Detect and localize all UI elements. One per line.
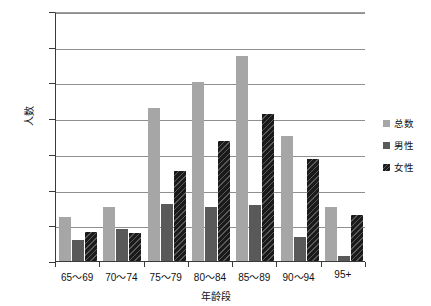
legend-item-label: 女性 [394,160,414,174]
bar-female [262,114,274,261]
gridline [56,13,365,14]
gridline [56,49,365,50]
bar-male [161,204,173,261]
x-axis-tick-mark [276,262,277,267]
bar-total [148,108,160,261]
bar-total [192,82,204,261]
bar-male [294,237,306,261]
bar-female [307,159,319,261]
x-axis-tick-mark [232,262,233,267]
legend: 总数男性女性 [383,116,414,182]
gridline [56,84,365,85]
legend-item[interactable]: 男性 [383,138,414,152]
gridline [56,120,365,121]
x-axis-title: 年龄段 [0,288,431,303]
x-axis-tick-label: 90～94 [276,269,320,284]
x-axis-tick-mark [99,262,100,267]
x-axis-tick-mark [188,262,189,267]
bar-male [205,207,217,261]
bar-female [218,141,230,261]
x-axis-tick-label: 85～89 [232,269,276,284]
legend-swatch-total [383,120,390,127]
plot-area [55,12,365,262]
legend-swatch-female [383,164,390,171]
x-axis-tick-mark [321,262,322,267]
y-axis-title: 人数 [21,86,36,146]
x-axis-tick-mark [55,262,56,267]
x-axis-tick-label: 80～84 [188,269,232,284]
bar-female [351,215,363,261]
x-axis-tick-mark [144,262,145,267]
bar-male [72,240,84,261]
x-axis-tick-label: 65～69 [55,269,99,284]
bar-total [281,136,293,261]
bar-male [116,229,128,261]
bar-total [59,217,71,261]
bar-chart: 人数 1400120010008006004002000 65～6970～747… [0,0,431,306]
x-axis-tick-label: 70～74 [99,269,143,284]
bar-female [85,232,97,261]
legend-item-label: 男性 [394,138,414,152]
legend-swatch-male [383,142,390,149]
bar-male [249,205,261,261]
bar-total [103,207,115,261]
x-axis-tick-mark [365,262,366,267]
bar-total [236,56,248,261]
bar-total [325,207,337,261]
bar-female [174,171,186,261]
gridline [56,192,365,193]
x-axis-tick-label: 75～79 [144,269,188,284]
legend-item[interactable]: 总数 [383,116,414,130]
bar-female [129,233,141,261]
gridline [56,156,365,157]
legend-item-label: 总数 [394,116,414,130]
bar-male [338,256,350,261]
legend-item[interactable]: 女性 [383,160,414,174]
x-axis-tick-label: 95+ [321,269,365,280]
